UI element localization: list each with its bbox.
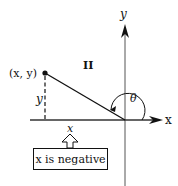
angle-arc [111,93,145,120]
terminal-side-line [45,73,125,120]
callout-text: x is negative [35,153,105,166]
horizontal-leg-label: x [67,122,74,135]
quadrant-label: II [83,59,93,72]
quadrant-diagram: y x II (x, y) y θ x x is negative [0,0,178,186]
angle-label: θ [130,92,137,105]
point-dot [42,70,47,75]
y-axis-label: y [119,7,127,21]
point-label: (x, y) [9,67,37,80]
hollow-up-arrow-icon [62,134,78,148]
vertical-leg-label: y [35,92,43,106]
x-axis-label: x [165,113,172,127]
